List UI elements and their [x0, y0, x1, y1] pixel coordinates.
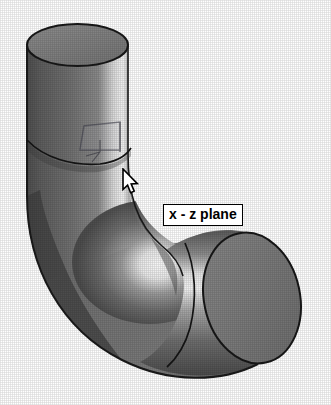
top-cap-face	[27, 24, 128, 66]
cad-3d-viewport[interactable]: x - z plane	[0, 0, 331, 405]
elbow-solid-body	[27, 24, 313, 378]
plane-tooltip: x - z plane	[163, 204, 243, 226]
mouse-cursor-arrow-icon	[121, 168, 141, 196]
elbow-pipe-model[interactable]	[0, 0, 331, 405]
